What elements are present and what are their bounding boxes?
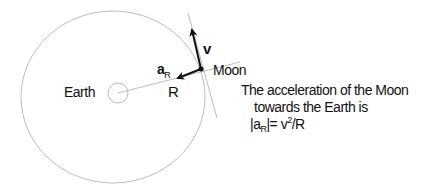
formula-mid: |= v	[266, 116, 287, 132]
radius-label: R	[168, 83, 178, 100]
formula-end: /R	[292, 116, 305, 132]
acceleration-arrow	[178, 69, 201, 78]
acceleration-label: aR	[157, 61, 170, 80]
caption-formula: |aR|= v2/R	[250, 115, 305, 134]
velocity-label: v	[203, 40, 211, 57]
velocity-arrow	[192, 30, 201, 69]
caption-line-1: The acceleration of the Moon	[241, 82, 408, 98]
formula-prefix: |a	[250, 116, 260, 132]
earth-label: Earth	[64, 84, 95, 100]
caption-line-2: towards the Earth is	[254, 99, 368, 115]
moon-dot	[199, 67, 204, 72]
accel-subscript: R	[164, 70, 170, 80]
moon-label: Moon	[213, 62, 246, 78]
